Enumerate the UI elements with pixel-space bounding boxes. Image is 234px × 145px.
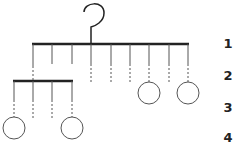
hanging-circles xyxy=(3,82,199,139)
circle-weight-2 xyxy=(177,82,199,104)
circle-weight-1 xyxy=(138,82,160,104)
hanger-hook-icon xyxy=(84,4,104,44)
mobile-diagram-graphic xyxy=(0,0,234,145)
level-label-2: 2 xyxy=(221,69,234,83)
circle-weight-4 xyxy=(61,117,83,139)
level-label-1: 1 xyxy=(221,37,234,51)
bars xyxy=(13,44,189,81)
mobile-diagram: 1 2 3 4 xyxy=(0,0,234,145)
hook-curve xyxy=(84,4,104,44)
circle-weight-3 xyxy=(3,117,25,139)
level-label-4: 4 xyxy=(221,131,234,145)
level-label-3: 3 xyxy=(221,101,234,115)
